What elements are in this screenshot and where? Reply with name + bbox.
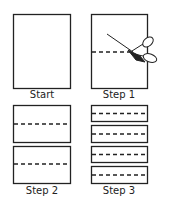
label-start: Start	[12, 89, 72, 100]
step2-piece-2	[14, 147, 71, 184]
folding-diagram	[0, 0, 176, 206]
start-sheet	[14, 15, 71, 89]
scissors-icon	[107, 34, 158, 64]
label-step2: Step 2	[12, 185, 72, 196]
label-step3: Step 3	[89, 185, 149, 196]
label-step1: Step 1	[89, 89, 149, 100]
